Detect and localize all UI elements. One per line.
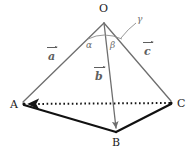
angle-label-alpha: α: [86, 41, 92, 50]
vertex-dot-C: [169, 101, 172, 104]
angle-label-gamma: γ: [137, 15, 142, 24]
vector-b-glyph: b: [95, 71, 103, 82]
edge-A-C-dotted: [28, 103, 170, 104]
vertex-dot-A: [22, 102, 25, 105]
gamma-leader-line: [121, 23, 136, 38]
edge-O-C: [104, 23, 171, 101]
vertex-label-B: B: [112, 137, 120, 148]
edge-B-C: [116, 104, 171, 132]
vector-c-glyph: c: [144, 46, 151, 57]
vertex-label-A: A: [10, 99, 18, 110]
vertex-label-O: O: [99, 3, 108, 14]
edge-O-A: [23, 23, 104, 102]
vector-label-c: c: [144, 46, 151, 57]
vector-label-b: b: [95, 71, 103, 82]
vector-tetrahedron-figure: O A B C a b c α β γ: [0, 0, 195, 152]
edge-O-B: [104, 23, 116, 128]
vector-a-glyph: a: [48, 51, 55, 62]
edge-A-B: [24, 105, 116, 132]
angle-label-beta: β: [110, 41, 115, 50]
vector-label-a: a: [48, 51, 55, 62]
vertex-label-C: C: [177, 98, 185, 109]
